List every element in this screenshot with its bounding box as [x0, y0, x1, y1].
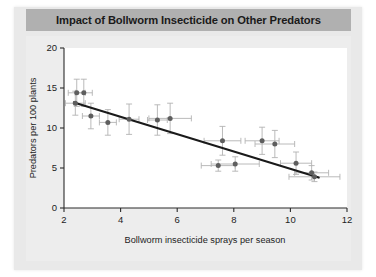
trend-line [74, 102, 319, 177]
data-point [220, 138, 225, 143]
data-point [233, 162, 238, 167]
scatter-chart: 05101520 24681012 Bollworm insecticide s… [0, 0, 376, 277]
data-point [105, 120, 110, 125]
y-tick-label: 10 [46, 122, 57, 133]
x-axis-label: Bollworm insecticide sprays per season [125, 235, 286, 245]
x-tick-label: 2 [61, 214, 66, 225]
x-tick-label: 12 [342, 214, 353, 225]
data-point [260, 138, 265, 143]
data-point [168, 116, 173, 121]
data-point [216, 163, 221, 168]
x-tick-label: 6 [175, 214, 180, 225]
y-tick-label: 5 [52, 162, 57, 173]
data-point [312, 174, 317, 179]
y-tick-label: 15 [46, 82, 57, 93]
x-tick-label: 10 [285, 214, 296, 225]
figure-page: Impact of Bollworm Insecticide on Other … [0, 0, 376, 277]
y-axis-label: Predators per 100 plants [28, 77, 38, 178]
y-tick-label: 0 [52, 202, 57, 213]
y-axis-ticks: 05101520 [46, 42, 64, 213]
data-point [81, 90, 86, 95]
data-point [294, 161, 299, 166]
data-point [155, 118, 160, 123]
x-tick-label: 8 [231, 214, 236, 225]
error-bars [65, 79, 340, 181]
x-tick-label: 4 [118, 214, 123, 225]
data-point [74, 90, 79, 95]
x-axis-ticks: 24681012 [61, 208, 352, 225]
data-point [88, 114, 93, 119]
data-point [272, 142, 277, 147]
data-point [73, 101, 78, 106]
y-tick-label: 20 [46, 42, 57, 53]
data-point [127, 117, 132, 122]
